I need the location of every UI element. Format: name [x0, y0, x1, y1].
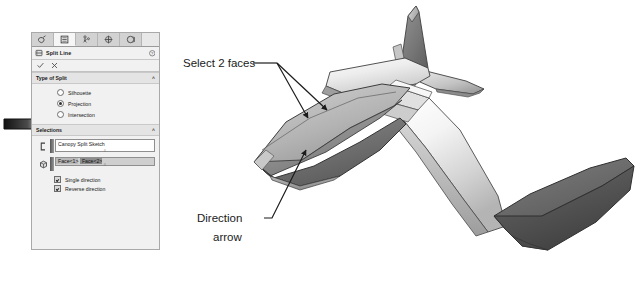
radio-projection-label: Projection — [68, 101, 91, 107]
checkbox-reverse-direction[interactable]: Reverse direction — [36, 184, 155, 193]
configuration-manager-tab[interactable] — [76, 33, 98, 46]
type-of-split-body: Silhouette Projection Intersection — [32, 84, 159, 124]
checkbox-reverse-direction-label: Reverse direction — [65, 186, 105, 192]
radio-projection-indicator — [57, 100, 64, 107]
faces-list[interactable]: Face<1> Face<2> ≡ — [55, 157, 155, 166]
type-of-split-header[interactable]: Type of Split ^ — [32, 72, 159, 84]
direction-arrow-callout-line2: arrow — [213, 231, 242, 243]
display-manager-tab[interactable] — [120, 33, 142, 46]
accept-button[interactable] — [37, 62, 44, 70]
radio-silhouette-indicator — [57, 89, 64, 96]
checkbox-single-direction[interactable]: Single direction — [36, 175, 155, 184]
green-check-icon — [37, 62, 44, 69]
radio-intersection-label: Intersection — [68, 112, 95, 118]
select-2-faces-callout: Select 2 faces — [183, 57, 255, 69]
dimxpert-icon — [104, 35, 113, 44]
faces-to-split-icon — [36, 157, 50, 171]
checkbox-single-direction-indicator — [54, 176, 61, 183]
panel-header: Split Line ? — [32, 47, 159, 60]
radio-intersection-indicator — [57, 111, 64, 118]
property-page-icon — [60, 35, 69, 44]
appearance-sphere-icon — [126, 35, 135, 44]
direction-arrow-callout-line1: Direction — [197, 212, 242, 224]
property-manager-panel: Split Line ? T — [31, 32, 160, 250]
selections-header[interactable]: Selections ^ — [32, 124, 159, 136]
property-manager-tab[interactable] — [54, 33, 76, 46]
property-manager-tabstrip — [32, 33, 159, 47]
type-of-split-section: Type of Split ^ Silhouette Projection In… — [32, 72, 159, 124]
cancel-button[interactable] — [51, 62, 58, 70]
panel-action-row — [32, 60, 159, 72]
list-item[interactable]: Face<2> — [80, 158, 102, 164]
sketch-selection-row: Canopy Split Sketch ≡ — [36, 139, 155, 153]
feature-manager-tab[interactable] — [32, 33, 54, 46]
screenshot-root: Split Line ? T — [0, 0, 642, 296]
list-item[interactable]: Face<1> — [56, 158, 78, 164]
chevron-up-icon[interactable]: ^ — [152, 127, 155, 133]
sketch-field-value: Canopy Split Sketch — [58, 141, 105, 147]
red-x-icon — [51, 62, 58, 69]
radio-projection[interactable]: Projection — [36, 98, 155, 109]
selections-body: Canopy Split Sketch ≡ Face<1> Face — [32, 136, 159, 197]
tabstrip-filler — [142, 33, 159, 46]
checkbox-reverse-direction-indicator — [54, 185, 61, 192]
sketch-field-gutter — [50, 139, 54, 153]
faces-list-resize-grip[interactable]: ≡ — [102, 164, 109, 166]
configuration-icon — [82, 35, 91, 44]
selections-section: Selections ^ Canopy Split Sketch ≡ — [32, 124, 159, 197]
selections-title: Selections — [36, 127, 62, 133]
svg-text:?: ? — [151, 51, 154, 56]
help-question-icon[interactable]: ? — [149, 50, 156, 58]
sketch-field-resize-grip[interactable]: ≡ — [102, 150, 109, 152]
faces-field-gutter — [50, 157, 54, 171]
type-of-split-title: Type of Split — [36, 75, 67, 81]
faces-selection-row: Face<1> Face<2> ≡ — [36, 157, 155, 171]
split-line-icon — [35, 49, 43, 57]
tree-icon — [38, 35, 47, 44]
radio-silhouette-label: Silhouette — [68, 90, 91, 96]
radio-intersection[interactable]: Intersection — [36, 109, 155, 120]
checkbox-single-direction-label: Single direction — [65, 177, 100, 183]
airplane-3d-model — [230, 0, 642, 296]
sketch-field[interactable]: Canopy Split Sketch ≡ — [55, 139, 155, 152]
sketch-region-icon — [36, 139, 50, 153]
dimxpert-manager-tab[interactable] — [98, 33, 120, 46]
page-title: Split Line — [46, 50, 71, 56]
radio-silhouette[interactable]: Silhouette — [36, 87, 155, 98]
chevron-up-icon[interactable]: ^ — [152, 75, 155, 81]
